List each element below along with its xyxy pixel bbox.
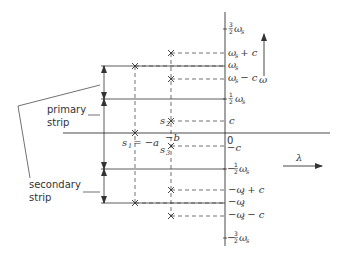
tick-label-c: c <box>229 115 235 126</box>
svg-text:s: s <box>160 115 165 126</box>
svg-text:s: s <box>246 168 250 176</box>
tick-label-neg-ws: −ω s <box>228 196 245 209</box>
pole-label-s2: s 2 <box>160 115 170 128</box>
svg-text:s: s <box>160 144 165 155</box>
svg-text:2: 2 <box>229 98 233 105</box>
svg-text:secondary: secondary <box>29 179 81 190</box>
svg-text:1: 1 <box>229 91 233 98</box>
strip-boundaries <box>101 66 225 203</box>
svg-text:s: s <box>122 137 127 148</box>
tick-label-half-ws: 1 2 ω s <box>229 91 247 106</box>
svg-text:strip: strip <box>47 117 69 128</box>
svg-text:strip: strip <box>29 192 51 203</box>
omega-axis-label: ω <box>259 74 267 85</box>
svg-text:s: s <box>241 28 245 36</box>
svg-text:= −a: = −a <box>130 137 159 148</box>
svg-text:1: 1 <box>234 161 238 168</box>
tick-label-neg-c: −c <box>227 142 241 153</box>
secondary-strip-label: secondary strip <box>29 179 81 203</box>
svg-text:− c: − c <box>244 209 265 220</box>
projection-dashes <box>135 53 225 216</box>
tick-label-neg-three-halves-ws: − 3 2 ω s <box>227 230 250 245</box>
pole-label-s3: s 3 <box>160 144 170 157</box>
svg-text:2: 2 <box>234 168 238 175</box>
lambda-axis-label: λ <box>295 152 302 163</box>
svg-text:+ c: + c <box>244 184 265 195</box>
tick-label-ws: ω s <box>228 59 239 72</box>
svg-text:s: s <box>235 64 239 72</box>
strip-mapping-diagram: ω λ 3 2 ω s ω s + c ω s ω s − c 1 2 ω s … <box>0 0 342 260</box>
pole-label-s1: s 1 = −a <box>122 137 159 150</box>
svg-text:− c: − c <box>237 72 258 83</box>
svg-text:+ c: + c <box>237 47 258 58</box>
primary-strip-label: primary strip <box>47 104 86 128</box>
svg-text:primary: primary <box>47 104 86 115</box>
svg-text:2: 2 <box>165 120 170 128</box>
tick-label-ws-minus-c: ω s − c <box>228 72 258 85</box>
svg-text:3: 3 <box>229 21 233 28</box>
svg-text:s: s <box>246 237 250 245</box>
svg-text:3: 3 <box>166 149 170 157</box>
pole-label-neg-b: −b <box>165 132 180 143</box>
svg-text:s: s <box>242 98 246 106</box>
svg-text:2: 2 <box>234 237 238 244</box>
svg-text:3: 3 <box>234 230 238 237</box>
tick-label-three-halves-ws: 3 2 ω s <box>229 21 246 36</box>
tick-label-neg-ws-minus-c: −ω s − c <box>228 209 265 222</box>
svg-text:2: 2 <box>229 28 233 35</box>
tick-label-neg-half-ws: − 1 2 ω s <box>227 161 250 176</box>
strip-leader-lines <box>18 85 100 192</box>
